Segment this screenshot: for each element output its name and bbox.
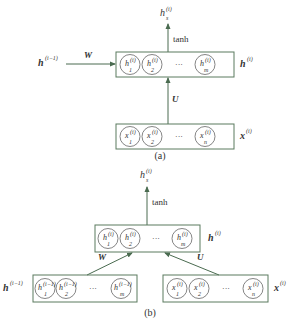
output-label-a: h — [160, 7, 165, 18]
svg-text:h: h — [38, 283, 42, 292]
rnn-diagram: h (i) s tanh h (i−1) W h (i) 1 h (i) 2 ·… — [0, 0, 291, 324]
svg-text:1: 1 — [176, 291, 179, 297]
output-sup-a: (i) — [166, 6, 172, 13]
svg-text:h: h — [114, 283, 118, 292]
hidden-label-a: h — [240, 58, 246, 69]
ellipsis-hidden-a: ··· — [175, 60, 183, 69]
input-unit-n-b: x (i) n — [243, 279, 263, 299]
output-sub-b: s — [146, 177, 149, 183]
diagram-a: h (i) s tanh h (i−1) W h (i) 1 h (i) 2 ·… — [38, 6, 253, 162]
hidden-unit-m-a: h (i) m — [195, 55, 215, 75]
recurrent-arrow-b — [87, 253, 132, 275]
svg-text:n: n — [204, 139, 207, 145]
diagram-b: h (i) s tanh h (i) 1 h (i) 2 ··· h (i) m… — [3, 168, 286, 319]
input-unit-1-b: x (i) 1 — [167, 279, 187, 299]
output-sup-b: (i) — [146, 168, 152, 175]
ellipsis-hidden-b: ··· — [152, 234, 160, 243]
prev-state-label-b: h — [3, 282, 9, 293]
input-unit-2-b: x (i) 2 — [189, 279, 209, 299]
input-unit-2-a: x (i) 2 — [142, 127, 162, 147]
svg-text:(i): (i) — [177, 281, 183, 288]
svg-text:n: n — [252, 291, 255, 297]
weight-w-label-a: W — [84, 50, 93, 60]
svg-text:(i): (i) — [152, 129, 158, 136]
weight-u-label-b: U — [197, 252, 204, 262]
svg-text:(i−1): (i−1) — [43, 281, 56, 288]
svg-text:1: 1 — [129, 67, 132, 73]
prev-unit-2-b: h (i−1) 2 — [56, 279, 77, 299]
caption-a: (a) — [154, 150, 165, 162]
caption-b: (b) — [144, 307, 156, 319]
svg-text:2: 2 — [151, 139, 154, 145]
activation-label-a: tanh — [173, 34, 189, 44]
output-label-b: h — [140, 169, 145, 180]
svg-text:(i): (i) — [130, 57, 136, 64]
svg-text:1: 1 — [107, 241, 110, 247]
weight-u-label-a: U — [172, 94, 179, 104]
prev-unit-m-b: h (i−1) m — [111, 279, 132, 299]
hidden-unit-2-a: h (i) 2 — [142, 55, 162, 75]
svg-text:(i): (i) — [152, 57, 158, 64]
input-unit-n-a: x (i) n — [195, 127, 215, 147]
svg-text:(i): (i) — [205, 129, 211, 136]
ellipsis-input-b: ··· — [222, 284, 230, 293]
svg-text:(i): (i) — [130, 231, 136, 238]
svg-text:(i): (i) — [205, 57, 211, 64]
output-sub-a: s — [166, 15, 169, 21]
prev-state-sup-a: (i−1) — [45, 55, 58, 62]
input-sup-a: (i) — [246, 128, 252, 135]
svg-text:(i): (i) — [199, 281, 205, 288]
svg-text:2: 2 — [129, 241, 132, 247]
svg-text:(i): (i) — [182, 231, 188, 238]
prev-state-label-a: h — [38, 57, 44, 68]
ellipsis-prev-b: ··· — [89, 284, 97, 293]
svg-text:m: m — [120, 291, 125, 297]
prev-state-sup-b: (i−1) — [10, 280, 23, 287]
hidden-label-b: h — [208, 232, 214, 243]
svg-text:2: 2 — [151, 67, 154, 73]
svg-text:(i): (i) — [130, 129, 136, 136]
ellipsis-input-a: ··· — [175, 132, 183, 141]
svg-text:(i−1): (i−1) — [64, 281, 77, 288]
input-unit-1-a: x (i) 1 — [120, 127, 140, 147]
svg-text:1: 1 — [44, 291, 47, 297]
input-label-a: x — [239, 130, 245, 141]
svg-text:(i−1): (i−1) — [119, 281, 132, 288]
svg-text:2: 2 — [198, 291, 201, 297]
hidden-unit-m-b: h (i) m — [172, 229, 192, 249]
hidden-sup-b: (i) — [215, 230, 221, 237]
hidden-unit-1-a: h (i) 1 — [120, 55, 140, 75]
hidden-unit-1-b: h (i) 1 — [98, 229, 118, 249]
svg-text:2: 2 — [65, 291, 68, 297]
svg-text:(i): (i) — [108, 231, 114, 238]
hidden-sup-a: (i) — [247, 56, 253, 63]
input-label-b: x — [273, 282, 279, 293]
svg-text:1: 1 — [129, 139, 132, 145]
hidden-unit-2-b: h (i) 2 — [120, 229, 140, 249]
input-arrow-b — [165, 253, 219, 275]
svg-text:m: m — [204, 67, 209, 73]
weight-w-label-b: W — [98, 252, 107, 262]
svg-text:h: h — [59, 283, 63, 292]
activation-label-b: tanh — [152, 197, 168, 207]
svg-text:m: m — [181, 241, 186, 247]
prev-unit-1-b: h (i−1) 1 — [35, 279, 56, 299]
input-sup-b: (i) — [280, 280, 286, 287]
svg-text:(i): (i) — [253, 281, 259, 288]
